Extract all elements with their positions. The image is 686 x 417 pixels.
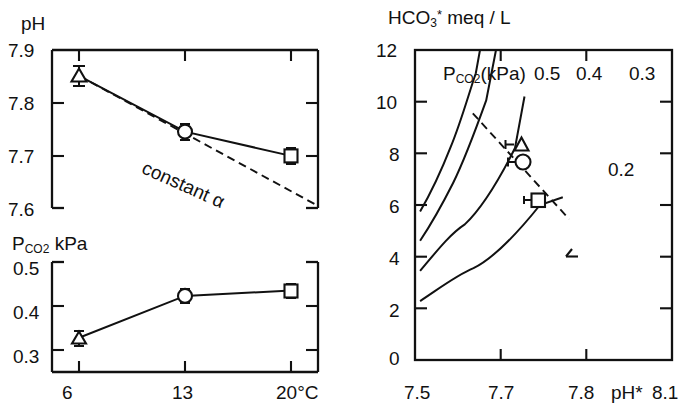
- ph-data-markers: [72, 69, 298, 163]
- marker-square-hco3: [532, 194, 546, 208]
- pco2-data-markers: [72, 285, 298, 344]
- marker-triangle-6c-pco2: [72, 332, 86, 344]
- isopleth-0-2: [420, 197, 563, 301]
- marker-circle-hco3: [516, 155, 531, 170]
- isopleth-0-4: [420, 50, 496, 241]
- pco2-panel-frame: [52, 262, 318, 372]
- marker-triangle-6c: [72, 69, 87, 82]
- plot-graphics: .frame{fill:none;stroke:#111;stroke-widt…: [0, 0, 686, 417]
- marker-circle-13c-pco2: [178, 289, 192, 303]
- marker-square-20c-pco2: [285, 285, 298, 298]
- pco2-panel-ticks: [52, 306, 318, 372]
- ph-constant-alpha-line: [79, 76, 316, 205]
- ph-series-line: [79, 76, 291, 156]
- marker-circle-13c: [178, 125, 192, 139]
- marker-square-20c: [285, 149, 298, 162]
- figure-container: pH 7.9 7.8 7.7 7.6 constant α PCO2 kPa 0…: [0, 0, 686, 417]
- hco3-isopleth-curves: [420, 50, 563, 301]
- isopleth-arrow-marks: [566, 249, 578, 257]
- hco3-data-markers: [515, 138, 546, 208]
